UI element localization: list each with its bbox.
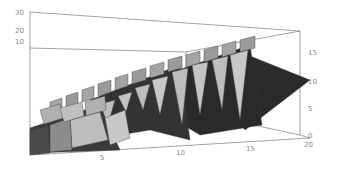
x-tick: 20 [304,141,313,149]
z-axis-ticks: 30 20 10 [15,9,24,46]
x-tick: 5 [100,154,104,162]
surface-plot: 30 20 10 15 10 5 0 5 10 15 20 [0,0,339,169]
z-tick: 20 [15,27,24,35]
z-tick: 30 [15,9,24,17]
y-tick: 15 [308,49,317,57]
y-tick: 0 [308,132,312,140]
y-axis-ticks: 15 10 5 0 [308,49,317,140]
y-tick: 5 [308,105,312,113]
z-tick: 10 [15,38,24,46]
x-tick: 10 [176,149,185,157]
y-tick: 10 [308,78,317,86]
x-tick: 15 [246,145,255,153]
surface-mesh [30,36,310,155]
